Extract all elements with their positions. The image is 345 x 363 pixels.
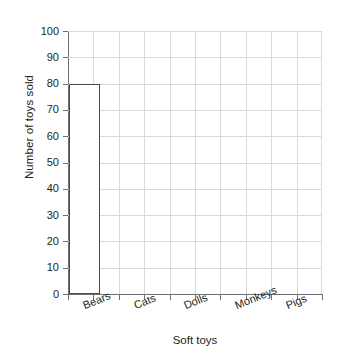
x-axis-title: Soft toys	[68, 334, 322, 346]
y-tick-mark	[63, 163, 68, 164]
y-tick-label: 40	[10, 183, 59, 194]
y-tick-mark	[63, 110, 68, 111]
bar-chart: Number of toys sold 10090807060504030201…	[0, 0, 345, 363]
y-tick-mark	[63, 215, 68, 216]
gridline-vertical	[220, 31, 221, 294]
x-tick-mark	[170, 295, 171, 300]
y-tick-mark	[63, 189, 68, 190]
gridline-vertical	[246, 31, 247, 294]
y-tick-label: 0	[10, 289, 59, 300]
x-tick-mark	[68, 295, 69, 300]
gridline-vertical	[321, 31, 322, 294]
y-tick-label: 60	[10, 131, 59, 142]
bar-bears	[69, 84, 99, 294]
y-tick-mark	[63, 84, 68, 85]
plot-area	[68, 31, 322, 294]
y-tick-label: 10	[10, 262, 59, 273]
y-tick-label: 70	[10, 104, 59, 115]
gridline-vertical	[170, 31, 171, 294]
x-tick-mark	[220, 295, 221, 300]
y-tick-mark	[63, 241, 68, 242]
gridline-vertical	[119, 31, 120, 294]
y-tick-mark	[63, 136, 68, 137]
gridline-vertical	[144, 31, 145, 294]
y-tick-mark	[63, 57, 68, 58]
gridline-vertical	[195, 31, 196, 294]
y-tick-label: 30	[10, 210, 59, 221]
y-tick-label: 90	[10, 52, 59, 63]
gridline-vertical	[297, 31, 298, 294]
gridline-vertical	[271, 31, 272, 294]
x-tick-mark	[322, 295, 323, 300]
y-tick-mark	[63, 268, 68, 269]
y-tick-mark	[63, 31, 68, 32]
y-tick-label: 50	[10, 157, 59, 168]
y-tick-label: 80	[10, 78, 59, 89]
y-tick-label: 100	[10, 26, 59, 37]
x-tick-mark	[119, 295, 120, 300]
y-tick-label: 20	[10, 236, 59, 247]
